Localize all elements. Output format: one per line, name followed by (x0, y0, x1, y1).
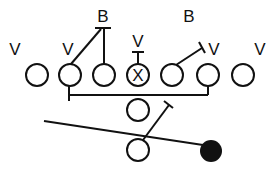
player-circle-2 (59, 64, 81, 86)
route-line (176, 48, 202, 65)
player-circle-1 (26, 64, 48, 86)
motion-line (44, 121, 203, 145)
label-v3: V (132, 32, 144, 51)
player-circle-6 (197, 64, 219, 86)
label-v4: V (208, 40, 220, 59)
player-circle-9 (127, 139, 149, 161)
play-diagram: X V V V V V B B (0, 0, 274, 171)
ball-carrier-circle (200, 140, 222, 162)
player-circle-5 (161, 64, 183, 86)
player-circle-8 (127, 99, 149, 121)
label-v5: V (254, 40, 266, 59)
player-circle-3 (93, 64, 115, 86)
route-line (143, 105, 169, 140)
label-v1: V (9, 40, 21, 59)
player-circle-7 (232, 64, 254, 86)
label-b1: B (97, 7, 108, 26)
label-b2: B (183, 7, 194, 26)
label-v2: V (62, 40, 74, 59)
block-tee (199, 42, 205, 53)
center-mark: X (132, 66, 143, 85)
route-line (71, 29, 101, 64)
